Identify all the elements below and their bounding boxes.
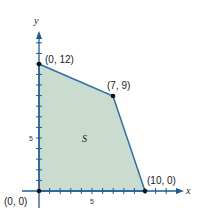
feasible-region-graph: x y 5 5 S (0, 0) (0, 12) (7, 9) (10, 0) [0,0,198,221]
y-tick-label-5: 5 [29,135,33,142]
x-tick-label-5: 5 [90,198,94,205]
vertex-label: (0, 0) [4,196,27,207]
region-label: S [82,133,87,144]
vertex-label: (7, 9) [107,80,130,91]
vertex-label: (0, 12) [45,54,74,65]
y-axis-label: y [33,15,39,26]
vertex-point [37,189,42,194]
x-axis-label: x [185,185,191,196]
vertex-point [111,94,116,99]
vertex-point [143,189,148,194]
vertex-label: (10, 0) [147,175,176,186]
vertex-point [37,62,42,67]
y-axis-arrow-icon [36,31,42,39]
x-axis-arrow-icon [176,188,184,194]
